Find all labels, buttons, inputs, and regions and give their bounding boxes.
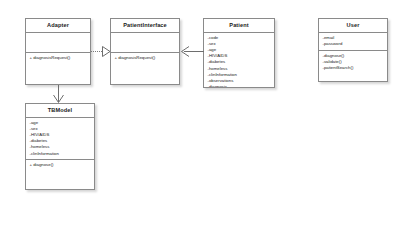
uml-method: + diagnosisRequest() — [30, 55, 88, 61]
uml-attributes-adapter — [26, 33, 90, 53]
uml-methods-patientinterface: + diagnosisRequest() — [111, 53, 179, 84]
uml-class-title-tbmodel: TBModel — [26, 104, 94, 118]
uml-methods-adapter: + diagnosisRequest() — [26, 53, 90, 84]
uml-attribute: -clinInformation — [30, 151, 92, 157]
uml-attributes-patientinterface — [111, 33, 179, 53]
association-open-arrow-left-icon — [180, 45, 190, 58]
uml-attributes-tbmodel: -age -sex -HIV/AIDS -diabetes -homeless … — [26, 118, 94, 160]
realization-hollow-triangle-icon — [102, 45, 111, 58]
uml-class-title-patient: Patient — [204, 19, 274, 33]
uml-attributes-user: -email -password — [319, 33, 387, 51]
uml-class-title-user: User — [319, 19, 387, 33]
uml-class-diagram-canvas: Adapter + diagnosisRequest() PatientInte… — [0, 0, 402, 236]
uml-attribute: -diagnosis — [208, 84, 272, 87]
uml-attribute: -password — [323, 41, 385, 47]
uml-class-adapter[interactable]: Adapter + diagnosisRequest() — [25, 18, 91, 85]
uml-class-tbmodel[interactable]: TBModel -age -sex -HIV/AIDS -diabetes -h… — [25, 103, 95, 190]
uml-methods-user: -diagnose() -validate() -patientSearch() — [319, 51, 387, 81]
uml-class-title-adapter: Adapter — [26, 19, 90, 33]
uml-class-title-patientinterface: PatientInterface — [111, 19, 179, 33]
uml-method: + diagnosisRequest() — [115, 55, 177, 61]
uml-method: -patientSearch() — [323, 65, 385, 71]
uml-methods-tbmodel: + diagnose() — [26, 160, 94, 189]
uml-class-patientinterface[interactable]: PatientInterface + diagnosisRequest() — [110, 18, 180, 85]
uml-class-user[interactable]: User -email -password -diagnose() -valid… — [318, 18, 388, 82]
uml-attributes-patient: -code -sex -age -HIV/AIDS -diabetes -hom… — [204, 33, 274, 87]
uml-method: + diagnose() — [30, 162, 92, 168]
association-open-arrow-down-icon — [52, 94, 65, 104]
uml-class-patient[interactable]: Patient -code -sex -age -HIV/AIDS -diabe… — [203, 18, 275, 88]
